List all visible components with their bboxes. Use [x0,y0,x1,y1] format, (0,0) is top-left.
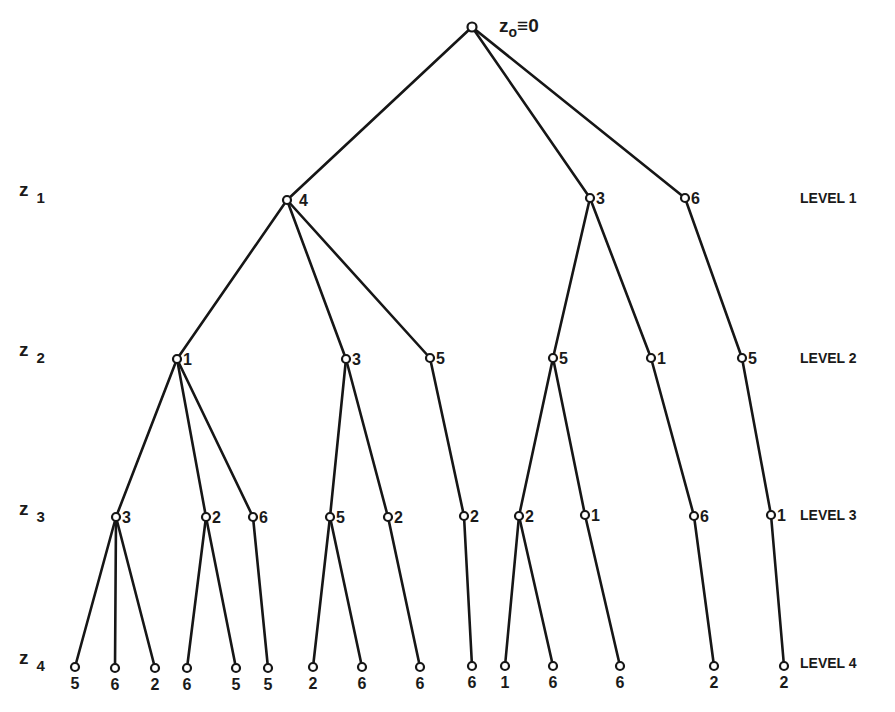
tree-node-level-4 [501,662,509,670]
root-node [468,23,477,32]
tree-edge [187,517,206,668]
node-value-label: 3 [352,351,361,368]
tree-edge [651,358,694,516]
tree-node-level-3 [249,513,257,521]
tree-edge [287,200,346,359]
leaf-value-label: 6 [358,675,367,692]
node-value-label: 3 [122,509,131,526]
tree-edge [694,516,714,666]
leaf-value-label: 6 [111,676,120,693]
tree-edges [75,27,784,668]
node-value-label: 6 [691,190,700,207]
tree-node-level-3 [767,511,775,519]
tree-edge [177,359,253,517]
tree-edge [177,200,287,359]
tree-node-level-3 [202,513,210,521]
tree-edge [685,198,742,358]
tree-node-level-2 [342,355,350,363]
leaf-value-label: 2 [309,675,318,692]
tree-edge [472,27,685,198]
tree-edge [771,515,784,666]
level-label-2: LEVEL 2 [800,350,857,366]
leaf-value-label: 6 [468,674,477,691]
tree-edge [464,516,472,666]
tree-node-level-4 [416,663,424,671]
leaf-value-label: 1 [501,674,510,691]
tree-edge [430,358,464,516]
node-value-label: 2 [212,509,221,526]
tree-node-level-3 [112,513,120,521]
row-label-z1: z1 [19,179,45,206]
node-value-label: 1 [183,351,192,368]
node-value-label: 2 [394,509,403,526]
node-value-label: 5 [748,350,757,367]
leaf-value-label: 2 [710,674,719,691]
tree-node-level-2 [173,355,181,363]
row-label-z4: z4 [19,647,46,674]
tree-edge [115,517,116,668]
tree-node-level-4 [780,662,788,670]
tree-edge [742,358,771,515]
leaf-value-label: 6 [183,676,192,693]
node-value-label: 4 [299,192,308,209]
level-label-3: LEVEL 3 [800,507,857,523]
level-label-1: LEVEL 1 [800,190,857,206]
tree-edge [177,359,206,517]
row-label-z2: z2 [19,339,45,366]
leaf-value-label: 2 [780,674,789,691]
tree-node-level-4 [71,663,79,671]
node-value-label: 1 [591,507,600,524]
tree-node-level-2 [738,354,746,362]
tree-edge [313,517,330,667]
node-value-label: 1 [777,507,786,524]
tree-node-level-4 [358,663,366,671]
tree-edge [346,359,388,517]
tree-edge [287,200,430,358]
level-label-4: LEVEL 4 [800,655,857,671]
tree-node-level-3 [515,512,523,520]
node-value-label: 6 [700,508,709,525]
leaf-value-label: 2 [151,676,160,693]
leaf-value-label: 6 [549,674,558,691]
tree-edge [75,517,116,667]
tree-node-level-3 [581,511,589,519]
tree-edge [519,358,553,516]
tree-edge [472,27,590,198]
search-tree-diagram: zo≡04361355153265222161562655266616622 z… [0,0,895,712]
node-value-label: 1 [657,350,666,367]
leaf-value-label: 6 [416,675,425,692]
tree-edge [253,517,268,668]
tree-node-level-4 [111,664,119,672]
node-value-label: 6 [259,509,268,526]
tree-node-level-1 [586,194,594,202]
tree-node-level-3 [460,512,468,520]
leaf-value-label: 5 [264,676,273,693]
tree-node-level-2 [647,354,655,362]
tree-node-level-4 [264,664,272,672]
tree-edge [330,517,362,667]
node-value-label: 3 [596,190,605,207]
tree-node-level-4 [151,664,159,672]
tree-node-level-3 [384,513,392,521]
tree-edge [519,516,553,666]
tree-edge [330,359,346,517]
leaf-value-label: 5 [232,676,241,693]
tree-edge [388,517,420,667]
tree-node-level-4 [309,663,317,671]
tree-node-level-3 [326,513,334,521]
node-value-label: 5 [559,350,568,367]
tree-edge [116,517,155,668]
tree-node-level-1 [283,196,291,204]
tree-node-level-3 [690,512,698,520]
tree-edge [553,198,590,358]
leaf-value-label: 6 [616,674,625,691]
tree-node-level-2 [549,354,557,362]
tree-node-level-2 [426,354,434,362]
tree-edge [585,515,620,666]
tree-edge [505,516,519,666]
root-label: zo≡0 [499,15,539,40]
tree-node-level-4 [468,662,476,670]
tree-edge [553,358,585,515]
tree-node-level-1 [681,194,689,202]
tree-edge [116,359,177,517]
